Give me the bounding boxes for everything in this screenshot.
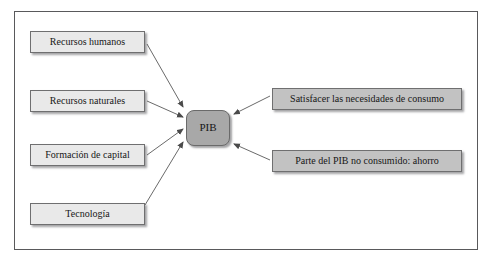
node-recursos-naturales[interactable]: Recursos naturales [30, 90, 145, 112]
node-label: Parte del PIB no consumido: ahorro [295, 156, 439, 167]
node-parte-pib-no-consumido-ahorro[interactable]: Parte del PIB no consumido: ahorro [272, 150, 462, 172]
node-satisfacer-necesidades-consumo[interactable]: Satisfacer las necesidades de consumo [272, 88, 462, 110]
node-label: Satisfacer las necesidades de consumo [290, 94, 444, 105]
node-formacion-de-capital[interactable]: Formación de capital [30, 144, 145, 166]
node-recursos-humanos[interactable]: Recursos humanos [30, 31, 145, 53]
node-label: Tecnología [65, 209, 109, 220]
node-label: Recursos naturales [50, 96, 125, 107]
node-label: PIB [199, 122, 216, 134]
diagram-canvas: Recursos humanos Recursos naturales Form… [0, 0, 491, 264]
node-label: Formación de capital [45, 150, 129, 161]
node-tecnologia[interactable]: Tecnología [30, 203, 145, 225]
node-pib[interactable]: PIB [186, 110, 230, 146]
node-label: Recursos humanos [50, 37, 125, 48]
